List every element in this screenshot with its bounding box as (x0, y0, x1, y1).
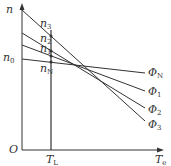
phi-1-label: Φ1 (148, 86, 162, 99)
n3-label: n3 (40, 18, 52, 31)
x-axis-label: Te (155, 154, 167, 166)
origin-label: O (9, 144, 18, 155)
phi-2-label: Φ2 (148, 104, 162, 117)
tl-label: TL (46, 154, 58, 166)
phi-n-label: ΦN (148, 67, 163, 80)
n0-label: n0 (3, 52, 15, 65)
y-axis-arrow-icon (20, 3, 25, 10)
nn-label: nN (40, 63, 53, 76)
phi-3-label: Φ3 (148, 119, 162, 132)
speed-torque-diagram (0, 0, 171, 166)
y-axis-label: n (6, 4, 13, 15)
n1-label: n1 (40, 43, 52, 56)
x-axis-arrow-icon (157, 148, 164, 153)
